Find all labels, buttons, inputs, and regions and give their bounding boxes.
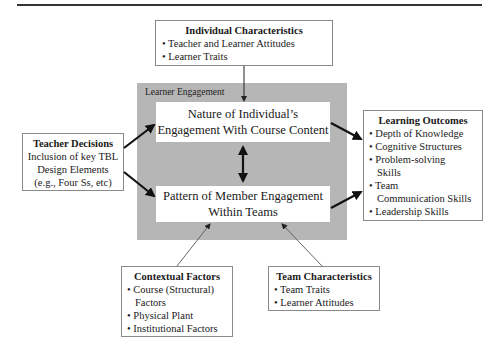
list-item: • Depth of Knowledge (367, 127, 479, 140)
teacher-decisions-line: Design Elements (25, 163, 121, 176)
individual-engagement-line-1: Nature of Individual’s (156, 106, 330, 122)
list-item: • Learner Attitudes (272, 296, 376, 309)
teacher-decisions-line: (e.g., Four Ss, etc) (25, 176, 121, 189)
individual-characteristics-title: Individual Characteristics (160, 24, 328, 37)
list-item: • Leadership Skills (367, 205, 479, 218)
learner-engagement-label: Learner Engagement (145, 87, 224, 97)
individual-engagement-line-2: Engagement With Course Content (156, 122, 330, 138)
list-item-continuation: Factors (125, 296, 229, 309)
list-item: • Cognitive Structures (367, 140, 479, 153)
learning-outcomes-title: Learning Outcomes (367, 114, 479, 127)
learning-outcomes-box: Learning Outcomes • Depth of Knowledge •… (363, 110, 483, 221)
list-item: • Institutional Factors (125, 322, 229, 335)
list-item: • Team (367, 179, 479, 192)
list-item: • Course (Structural) (125, 283, 229, 296)
contextual-factors-box: Contextual Factors • Course (Structural)… (121, 266, 233, 337)
list-item: • Problem-solving (367, 153, 479, 166)
teacher-decisions-box: Teacher Decisions Inclusion of key TBL D… (22, 133, 124, 191)
list-item: • Teacher and Learner Attitudes (160, 37, 328, 50)
teacher-decisions-line: Inclusion of key TBL (25, 150, 121, 163)
individual-characteristics-box: Individual Characteristics • Teacher and… (155, 20, 333, 66)
header-rule (17, 4, 482, 6)
list-item: • Team Traits (272, 283, 376, 296)
list-item: • Learner Traits (160, 50, 328, 63)
team-characteristics-box: Team Characteristics • Team Traits • Lea… (268, 266, 380, 311)
contextual-factors-title: Contextual Factors (125, 270, 229, 283)
team-characteristics-title: Team Characteristics (272, 270, 376, 283)
team-engagement-line-2: Within Teams (156, 204, 330, 220)
team-engagement-line-1: Pattern of Member Engagement (156, 188, 330, 204)
list-item: • Physical Plant (125, 309, 229, 322)
team-engagement-box: Pattern of Member Engagement Within Team… (156, 186, 330, 222)
list-item-continuation: Skills (367, 166, 479, 179)
list-item-continuation: Communication Skills (367, 192, 479, 205)
teacher-decisions-title: Teacher Decisions (25, 137, 121, 150)
individual-engagement-box: Nature of Individual’s Engagement With C… (156, 102, 330, 142)
